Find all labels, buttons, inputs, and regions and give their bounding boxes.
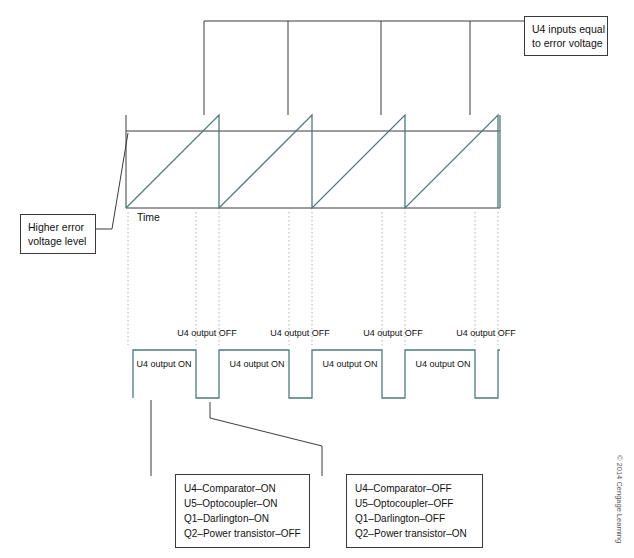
top-annotation-leader [204, 21, 524, 115]
state-box-on: U4–Comparator–ON U5–Optocoupler–ON Q1–Da… [175, 474, 310, 548]
wave-label-off-3: U4 output OFF [363, 328, 423, 339]
wave-label-on-4-line-2: output ON [430, 359, 471, 369]
state-box-off-line-3: Q1–Darlington–OFF [355, 511, 474, 526]
wave-label-off-2: U4 output OFF [270, 328, 330, 339]
wave-label-on-1-line-1: U4 [136, 359, 148, 369]
wave-label-off-3-line-2: output OFF [377, 328, 423, 338]
state-box-on-line-3: Q1–Darlington–ON [184, 511, 301, 526]
error-voltage-leader [95, 133, 128, 229]
callout-higher-error-line-1: Higher error [28, 220, 88, 234]
callout-higher-error-voltage: Higher error voltage level [20, 214, 96, 254]
state-box-leaders [151, 400, 322, 476]
callout-higher-error-line-2: voltage level [28, 234, 88, 248]
wave-label-off-2-line-1: U4 [270, 328, 282, 338]
time-axis-label: Time [137, 211, 160, 223]
wave-label-off-2-line-2: output OFF [284, 328, 330, 338]
state-box-off: U4–Comparator–OFF U5–Optocoupler–OFF Q1–… [346, 474, 483, 548]
diagram-vector-layer [0, 0, 634, 558]
wave-label-on-2: U4 output ON [229, 359, 284, 370]
state-box-off-line-4: Q2–Power transistor–ON [355, 526, 474, 541]
wave-label-on-3-line-1: U4 [322, 359, 334, 369]
wave-label-off-4-line-1: U4 [456, 328, 468, 338]
state-box-on-line-4: Q2–Power transistor–OFF [184, 526, 301, 541]
dotted-projection-lines [128, 212, 498, 345]
callout-u4-inputs-line-2: to error voltage [532, 36, 600, 50]
wave-label-off-1-line-2: output OFF [191, 328, 237, 338]
wave-label-on-1: U4 output ON [136, 359, 191, 370]
sawtooth-plot-frame [126, 115, 500, 208]
wave-label-off-4-line-2: output OFF [470, 328, 516, 338]
copyright-credit: © 2014 Cengage Learning [615, 455, 624, 543]
wave-label-on-3: U4 output ON [322, 359, 377, 370]
state-box-on-line-1: U4–Comparator–ON [184, 481, 301, 496]
wave-label-on-1-line-2: output ON [151, 359, 192, 369]
wave-label-on-3-line-2: output ON [337, 359, 378, 369]
callout-u4-inputs-line-1: U4 inputs equal [532, 22, 600, 36]
wave-label-off-4: U4 output OFF [456, 328, 516, 339]
wave-label-on-2-line-2: output ON [244, 359, 285, 369]
wave-label-off-3-line-1: U4 [363, 328, 375, 338]
figure-canvas: U4 inputs equal to error voltage Higher … [0, 0, 634, 558]
state-box-off-line-1: U4–Comparator–OFF [355, 481, 474, 496]
wave-label-on-4-line-1: U4 [415, 359, 427, 369]
callout-u4-inputs-equal: U4 inputs equal to error voltage [524, 16, 608, 56]
wave-label-off-1-line-1: U4 [177, 328, 189, 338]
square-wave-output [133, 350, 500, 398]
wave-label-on-2-line-1: U4 [229, 359, 241, 369]
sawtooth-waveform [126, 115, 500, 208]
state-box-off-line-2: U5–Optocoupler–OFF [355, 496, 474, 511]
wave-label-on-4: U4 output ON [415, 359, 470, 370]
state-box-on-line-2: U5–Optocoupler–ON [184, 496, 301, 511]
wave-label-off-1: U4 output OFF [177, 328, 237, 339]
